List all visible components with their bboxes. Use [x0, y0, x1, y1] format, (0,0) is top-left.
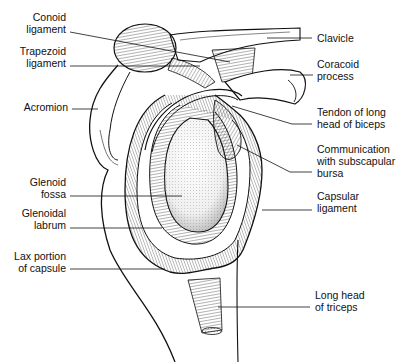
- label-line: process: [317, 70, 359, 82]
- label-line: Glenoid: [14, 176, 66, 188]
- label-line: fossa: [14, 188, 66, 200]
- label-line: Tendon of long: [317, 106, 386, 118]
- label-line: of triceps: [315, 301, 365, 313]
- label-line: Conoid: [22, 11, 66, 23]
- label-line: labrum: [14, 219, 66, 231]
- label-line: ligament: [12, 57, 66, 69]
- label-line: Glenoidal: [14, 207, 66, 219]
- label-acromion: Acromion: [12, 101, 68, 113]
- label-line: of capsule: [4, 262, 66, 274]
- triceps-tendon-shape: [188, 278, 222, 335]
- label-line: with subscapular: [317, 155, 395, 167]
- label-long-head-triceps: Long head of triceps: [315, 289, 365, 313]
- label-tendon-long-head-biceps: Tendon of long head of biceps: [317, 106, 386, 130]
- label-communication-subscapular-bursa: Communication with subscapular bursa: [317, 143, 395, 179]
- label-clavicle: Clavicle: [317, 32, 354, 44]
- label-capsular-ligament: Capsular ligament: [317, 190, 359, 214]
- label-glenoidal-labrum: Glenoidal labrum: [14, 207, 66, 231]
- label-coracoid-process: Coracoid process: [317, 58, 359, 82]
- label-line: Long head: [315, 289, 365, 301]
- label-line: Acromion: [12, 101, 68, 113]
- label-line: Clavicle: [317, 32, 354, 44]
- label-trapezoid-ligament: Trapezoid ligament: [12, 45, 66, 69]
- label-line: head of biceps: [317, 118, 386, 130]
- label-lax-portion-of-capsule: Lax portion of capsule: [4, 250, 66, 274]
- label-line: Capsular: [317, 190, 359, 202]
- label-line: Communication: [317, 143, 395, 155]
- label-line: Trapezoid: [12, 45, 66, 57]
- conoid-ligament-shape: [114, 24, 176, 72]
- label-line: ligament: [22, 23, 66, 35]
- label-glenoid-fossa: Glenoid fossa: [14, 176, 66, 200]
- label-conoid-ligament: Conoid ligament: [22, 11, 66, 35]
- label-line: bursa: [317, 167, 395, 179]
- label-line: Lax portion: [4, 250, 66, 262]
- label-line: Coracoid: [317, 58, 359, 70]
- label-line: ligament: [317, 202, 359, 214]
